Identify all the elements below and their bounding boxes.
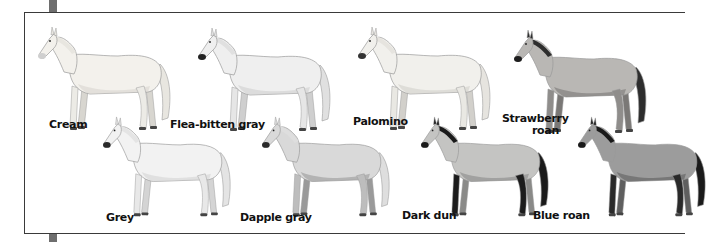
page-tab-bottom: [49, 233, 57, 242]
label-cream: Cream: [49, 119, 87, 131]
horse-blue-roan-illustration: [578, 113, 710, 225]
label-dapple-gray: Dapple gray: [240, 212, 312, 224]
label-strawberry-roan: Strawberry roan: [502, 113, 559, 137]
label-dark-dun: Dark dun: [402, 210, 456, 222]
label-grey: Grey: [106, 212, 134, 224]
label-blue-roan: Blue roan: [533, 210, 590, 222]
label-strawberry-roan-line2: roan: [502, 125, 559, 137]
label-palomino: Palomino: [353, 116, 408, 128]
horse-dapple-gray-illustration: [262, 113, 397, 225]
label-flea-bitten-gray: Flea-bitten gray: [170, 119, 265, 131]
